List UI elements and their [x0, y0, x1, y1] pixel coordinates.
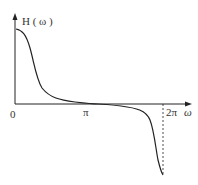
y-axis-label: H ( ω ) — [22, 15, 53, 28]
two-pi-tick-label: 2π — [166, 106, 178, 118]
frequency-response-diagram: H ( ω ) 0 π 2π ω — [0, 0, 198, 185]
pi-tick-label: π — [83, 106, 89, 118]
x-axis-label: ω — [184, 106, 192, 118]
y-axis-arrow-icon — [13, 13, 18, 20]
diagram-canvas: H ( ω ) 0 π 2π ω — [0, 0, 198, 185]
origin-label: 0 — [10, 108, 16, 120]
h-omega-curve — [16, 29, 163, 175]
